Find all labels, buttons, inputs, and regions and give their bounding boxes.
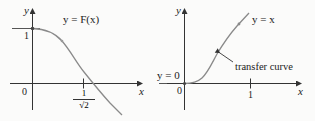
identity-line-equation-label: y = x [252, 14, 275, 25]
curve-origin-point-marker [183, 82, 186, 85]
left-figure-panel: y x 1 0 y = F(x) 1 √2 [0, 0, 157, 121]
fraction-numerator: 1 [73, 89, 95, 100]
right-y-axis-label: y [176, 5, 181, 16]
left-x-tick-fraction-one-over-root-two: 1 √2 [73, 89, 95, 110]
left-curve-equation-label: y = F(x) [63, 14, 99, 25]
left-y-tick-label-one: 1 [24, 31, 29, 41]
curve-mid-point-marker [61, 40, 64, 43]
left-origin-label: 0 [22, 87, 27, 97]
curve-upper-point-marker [238, 23, 241, 26]
asymptote-equation-label: y = 0 [157, 70, 180, 81]
transfer-curve-annotation-label: transfer curve [235, 62, 293, 73]
figure-container: y x 1 0 y = F(x) 1 √2 [0, 0, 315, 121]
right-x-axis-label: x [298, 86, 303, 97]
left-y-axis-label: y [24, 5, 29, 16]
fraction-denominator: √2 [73, 100, 95, 110]
right-origin-label: 0 [177, 86, 182, 96]
curve-start-point-marker [31, 27, 35, 31]
left-x-axis-label: x [139, 86, 144, 97]
right-figure-panel: y x 0 1 y = 0 y = x transfer curve [157, 0, 315, 121]
transfer-curve-leader-line [217, 51, 233, 62]
right-x-tick-label-one: 1 [248, 90, 253, 100]
